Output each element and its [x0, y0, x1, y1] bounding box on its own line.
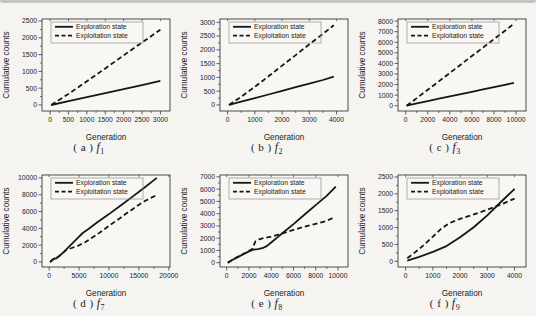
y-tick-label: 1000: [378, 224, 393, 231]
y-axis-title: Cumulative counts: [180, 31, 189, 98]
x-tick-label: 4000: [507, 272, 522, 279]
y-axis: 0200040006000800010000Cumulative counts: [2, 174, 42, 265]
y-tick-label: 2500: [378, 173, 393, 180]
y-tick-label: 0: [33, 101, 37, 108]
x-tick-label: 2500: [134, 116, 149, 123]
legend-label: Exploration state: [432, 23, 483, 31]
y-tick-label: 500: [26, 85, 38, 92]
y-tick-label: 1000: [200, 247, 215, 254]
subplot-e: 0200040006000800010000Generation01000200…: [178, 159, 356, 315]
y-tick-label: 0: [211, 259, 215, 266]
caption-c: ( c )f3: [356, 140, 534, 156]
legend-label: Exploitation state: [76, 188, 128, 196]
x-tick-label: 10000: [329, 272, 348, 279]
y-tick-label: 1500: [378, 207, 393, 214]
caption-b-label: ( b ): [251, 141, 272, 153]
y-axis-title: Cumulative counts: [358, 187, 367, 254]
y-tick-label: 4000: [22, 225, 37, 232]
y-tick-label: 3000: [200, 19, 215, 26]
y-tick-label: 1500: [200, 60, 215, 67]
chart-d-canvas: 05000100001500020000Generation0200040006…: [0, 159, 178, 299]
x-tick-label: 0: [404, 116, 408, 123]
y-tick-label: 5000: [200, 198, 215, 205]
x-tick-label: 0: [226, 116, 230, 123]
y-tick-label: 4000: [200, 210, 215, 217]
x-tick-label: 1500: [98, 116, 113, 123]
subplot-f: 01000200030004000Generation0500100015002…: [356, 159, 534, 315]
y-tick-label: 4000: [378, 60, 393, 67]
x-tick-label: 0: [47, 272, 51, 279]
caption-f-label: ( f ): [430, 297, 449, 309]
caption-e-sub: 8: [278, 303, 283, 312]
y-tick-label: 0: [33, 258, 37, 265]
subplot-b: 01000200030004000Generation0500100015002…: [178, 3, 356, 159]
x-tick-label: 4000: [264, 272, 279, 279]
caption-a-sub: 1: [100, 147, 105, 156]
x-tick-label: 10000: [100, 272, 119, 279]
y-tick-label: 6000: [378, 39, 393, 46]
x-tick-label: 2000: [420, 116, 435, 123]
legend-label: Exploitation state: [432, 32, 484, 40]
figure-page: 050010001500200025003000Generation050010…: [0, 0, 536, 316]
x-tick-label: 0: [225, 272, 229, 279]
x-tick-label: 5000: [72, 272, 87, 279]
x-tick-label: 4000: [442, 116, 457, 123]
legend-label: Exploration state: [254, 23, 305, 31]
x-tick-label: 2000: [116, 116, 131, 123]
x-tick-label: 3000: [480, 272, 495, 279]
caption-c-label: ( c ): [429, 141, 449, 153]
y-axis-title: Cumulative counts: [2, 31, 11, 98]
y-axis: 050010001500200025003000Cumulative count…: [180, 19, 220, 109]
y-tick-label: 6000: [200, 186, 215, 193]
x-tick-label: 20000: [159, 272, 178, 279]
x-tick-label: 6000: [286, 272, 301, 279]
caption-b-sub: 2: [279, 147, 284, 156]
caption-f: ( f )f9: [356, 296, 534, 312]
y-axis: 010002000300040005000600070008000Cumulat…: [358, 18, 398, 110]
y-axis-title: Cumulative counts: [180, 187, 189, 254]
x-tick-label: 2000: [241, 272, 256, 279]
y-tick-label: 3000: [378, 70, 393, 77]
caption-c-sub: 3: [456, 147, 461, 156]
x-tick-label: 3000: [153, 116, 168, 123]
y-tick-label: 2500: [22, 17, 37, 24]
x-tick-label: 3000: [302, 116, 317, 123]
legend-label: Exploration state: [76, 23, 127, 31]
x-tick-label: 1000: [79, 116, 94, 123]
y-tick-label: 8000: [22, 191, 37, 198]
x-tick-label: 8000: [486, 116, 501, 123]
legend-label: Exploration state: [254, 179, 305, 187]
y-tick-label: 7000: [200, 173, 215, 180]
y-tick-label: 2000: [378, 190, 393, 197]
y-axis: 01000200030004000500060007000Cumulative …: [180, 173, 220, 266]
y-tick-label: 6000: [22, 208, 37, 215]
y-tick-label: 10000: [18, 174, 37, 181]
x-tick-label: 1000: [425, 272, 440, 279]
y-tick-label: 0: [389, 102, 393, 109]
y-tick-label: 3000: [200, 222, 215, 229]
y-tick-label: 0: [389, 258, 393, 265]
subplot-d: 05000100001500020000Generation0200040006…: [0, 159, 178, 315]
y-tick-label: 1500: [22, 51, 37, 58]
y-axis-title: Cumulative counts: [358, 31, 367, 98]
caption-d-label: ( d ): [73, 297, 94, 309]
x-tick-label: 0: [404, 272, 408, 279]
legend-label: Exploration state: [432, 179, 483, 187]
chart-e-canvas: 0200040006000800010000Generation01000200…: [178, 159, 356, 299]
legend-label: Exploitation state: [254, 32, 306, 40]
subplot-c: 0200040006000800010000Generation01000200…: [356, 3, 534, 159]
subplot-grid: 050010001500200025003000Generation050010…: [0, 3, 534, 315]
y-tick-label: 2000: [22, 34, 37, 41]
caption-d: ( d )f7: [0, 296, 178, 312]
y-tick-label: 500: [204, 88, 216, 95]
legend-label: Exploitation state: [432, 188, 484, 196]
x-tick-label: 500: [63, 116, 75, 123]
x-tick-label: 1000: [247, 116, 262, 123]
x-tick-label: 2000: [453, 272, 468, 279]
x-tick-label: 2000: [275, 116, 290, 123]
x-tick-label: 6000: [464, 116, 479, 123]
y-axis-title: Cumulative counts: [2, 187, 11, 254]
y-tick-label: 1000: [200, 74, 215, 81]
chart-b-canvas: 01000200030004000Generation0500100015002…: [178, 3, 356, 143]
caption-a-label: ( a ): [73, 141, 93, 153]
